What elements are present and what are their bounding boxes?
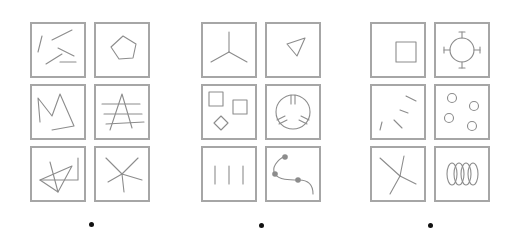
zigzag-icon — [32, 86, 84, 138]
panel-b-squares-diamond[interactable] — [201, 84, 257, 140]
figure-group-c — [370, 22, 492, 202]
group-b-marker-dot — [259, 223, 264, 228]
panel-a-triangle-l[interactable] — [30, 146, 86, 202]
panel-b-vertical-lines[interactable] — [201, 146, 257, 202]
panel-c-fanning-dashes[interactable] — [370, 84, 426, 140]
panel-b-curve-dots[interactable] — [265, 146, 321, 202]
panel-b-notched-circle[interactable] — [265, 84, 321, 140]
scattered-lines-icon — [32, 24, 84, 76]
tabbed-circle-icon — [436, 24, 488, 76]
y-junction-icon — [203, 24, 255, 76]
panel-c-branching-y[interactable] — [370, 146, 426, 202]
panel-a-star-lines[interactable] — [94, 146, 150, 202]
small-square-icon — [372, 24, 424, 76]
fanning-dashes-icon — [372, 86, 424, 138]
small-triangle-icon — [267, 24, 319, 76]
crossed-letter-a-icon — [96, 86, 148, 138]
group-c-marker-dot — [428, 223, 433, 228]
panel-a-zigzag[interactable] — [30, 84, 86, 140]
pentagon-icon — [96, 24, 148, 76]
panel-a-scattered-lines[interactable] — [30, 22, 86, 78]
squares-and-diamond-icon — [203, 86, 255, 138]
panel-b-small-triangle[interactable] — [265, 22, 321, 78]
panel-a-crossed-a[interactable] — [94, 84, 150, 140]
panel-c-tabbed-circle[interactable] — [434, 22, 490, 78]
group-a-marker-dot — [89, 222, 94, 227]
panel-c-ellipses[interactable] — [434, 146, 490, 202]
overlapping-ellipses-icon — [436, 148, 488, 200]
star-lines-icon — [96, 148, 148, 200]
triangle-and-l-icon — [32, 148, 84, 200]
figure-group-b — [201, 22, 323, 202]
panel-a-pentagon[interactable] — [94, 22, 150, 78]
notched-circle-icon — [267, 86, 319, 138]
four-circles-icon — [436, 86, 488, 138]
curve-with-dots-icon — [267, 148, 319, 200]
figure-group-a — [30, 22, 152, 202]
vertical-lines-icon — [203, 148, 255, 200]
panel-c-four-circles[interactable] — [434, 84, 490, 140]
branching-lines-icon — [372, 148, 424, 200]
panel-b-y-junction[interactable] — [201, 22, 257, 78]
panel-c-small-square[interactable] — [370, 22, 426, 78]
